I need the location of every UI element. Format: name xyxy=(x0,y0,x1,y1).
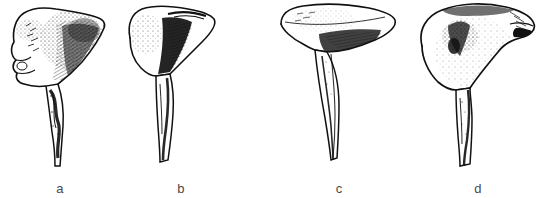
figure-label-b: b xyxy=(122,182,240,196)
figure-c: c xyxy=(275,0,403,198)
scapula-drawing-a xyxy=(0,0,120,180)
figure-label-d: d xyxy=(412,182,544,196)
shaft-c xyxy=(315,50,339,160)
figure-b: b xyxy=(122,0,240,198)
figure-a: a xyxy=(0,0,120,198)
scapula-drawing-b xyxy=(122,0,240,180)
figure-d: d xyxy=(412,0,544,198)
figure-label-a: a xyxy=(0,182,120,196)
scapula-drawing-d xyxy=(412,0,544,180)
scapula-drawing-c xyxy=(275,0,403,180)
figure-label-c: c xyxy=(275,182,403,196)
specimen-plate: a xyxy=(0,0,544,198)
